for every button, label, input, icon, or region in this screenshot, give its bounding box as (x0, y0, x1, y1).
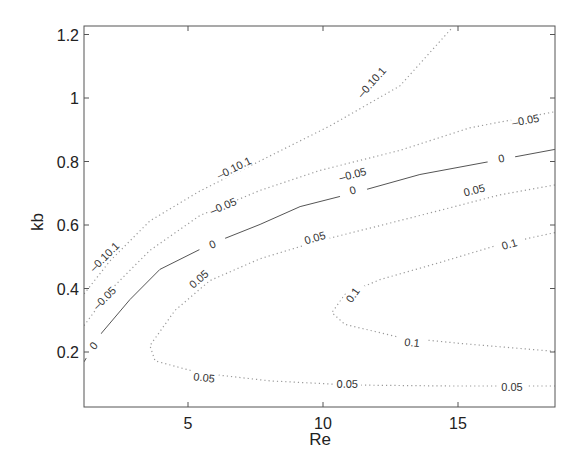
contour-labels: –0.10.1–0.10.1–0.10.1–0.05–0.05–0.05–0.0… (80, 64, 541, 392)
contour-label: 0.05 (501, 381, 522, 393)
contour-level-0_1 (332, 233, 555, 352)
contour-label: –0.10.1 (215, 154, 253, 181)
y-tick-label: 0.6 (57, 217, 79, 234)
y-tick-label: 0.2 (57, 344, 79, 361)
y-tick-label: 0.4 (57, 281, 79, 298)
contour-label: –0.05 (208, 195, 238, 217)
contour-label: –0.10.1 (87, 240, 121, 274)
contour-label: –0.05 (511, 112, 540, 129)
x-tick-label: 5 (184, 415, 193, 432)
contour-label: 0.05 (462, 182, 486, 199)
x-axis-label: Re (309, 430, 331, 449)
y-tick-label: 1 (70, 90, 79, 107)
contour-label: 0.05 (303, 229, 327, 247)
contour-label: 0.05 (337, 378, 359, 390)
plot-frame (84, 26, 555, 407)
contour-label: 0.1 (404, 336, 420, 349)
y-axis-label: kb (28, 213, 47, 231)
contour-label: –0.10.1 (355, 64, 388, 99)
contour-level-neg0_05 (84, 112, 555, 326)
contour-label: –0.05 (338, 165, 368, 183)
contour-plot: –0.10.1–0.10.1–0.10.1–0.05–0.05–0.05–0.0… (0, 0, 585, 467)
contour-lines (84, 27, 555, 386)
contour-label: 0.05 (193, 370, 216, 384)
contour-level-neg0_1 (84, 27, 453, 294)
contour-level-0 (84, 149, 555, 361)
y-tick-label: 0.8 (57, 154, 79, 171)
y-tick-label: 1.2 (57, 27, 79, 44)
x-tick-label: 15 (449, 415, 467, 432)
